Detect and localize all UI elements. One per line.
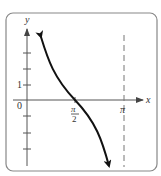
cotangent-graph: y x 0 1 π 2 π <box>0 0 161 176</box>
x-tick-label-pi-half-num: π <box>71 104 76 114</box>
x-axis-label: x <box>145 94 151 105</box>
x-tick-label-pi-half-den: 2 <box>72 114 77 124</box>
y-axis-label: y <box>24 14 30 25</box>
x-tick-label-pi: π <box>120 104 126 115</box>
y-tick-label-1: 1 <box>17 79 22 90</box>
origin-label: 0 <box>17 100 22 111</box>
frame <box>6 13 157 171</box>
